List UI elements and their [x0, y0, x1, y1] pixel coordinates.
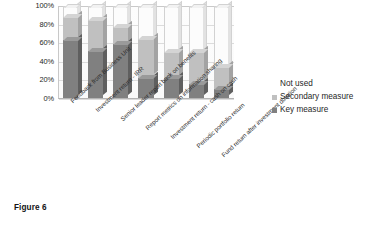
y-axis-tick-label: 20%	[40, 76, 55, 84]
legend-swatch-icon	[272, 95, 277, 100]
figure-caption: Figure 6	[14, 203, 47, 212]
chart-legend: Not usedSecondary measureKey measure	[272, 78, 368, 117]
legend-swatch-icon	[272, 108, 277, 113]
figure-container: 100%80%60%40%20%0% Feedback from Busines…	[0, 0, 373, 234]
bar-group	[138, 6, 153, 98]
bar-group	[164, 6, 179, 98]
legend-item-label: Not used	[280, 79, 313, 89]
legend-item[interactable]: Key measure	[272, 104, 368, 116]
y-axis-tick-label: 40%	[40, 58, 55, 66]
bar-segment-key-measure	[63, 40, 78, 98]
y-axis-tick-label: 60%	[40, 39, 55, 47]
bar-segment-secondary-measure	[88, 20, 103, 51]
legend-item-label: Key measure	[280, 105, 328, 115]
bar-side-face	[154, 33, 158, 74]
bar-front-face	[88, 20, 103, 51]
bar-front-face	[63, 40, 78, 98]
legend-item[interactable]: Not used	[272, 78, 368, 90]
bar-group	[63, 6, 78, 98]
legend-item-label: Secondary measure	[280, 92, 353, 102]
legend-swatch-icon	[272, 82, 277, 87]
y-axis-tick-label: 80%	[40, 21, 55, 29]
chart-plot-wrapper: 100%80%60%40%20%0%	[22, 6, 234, 111]
y-axis: 100%80%60%40%20%0%	[22, 6, 56, 99]
y-axis-tick-label: 100%	[35, 2, 54, 10]
bar-top-face	[164, 49, 183, 53]
legend-item[interactable]: Secondary measure	[272, 91, 368, 103]
x-axis-category-labels: Feedback from Business UnitInvestment re…	[22, 99, 272, 191]
